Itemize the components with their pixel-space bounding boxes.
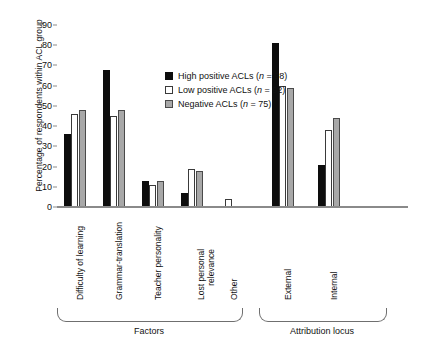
legend-swatch-black-icon	[165, 72, 173, 80]
y-tick-mark-80	[53, 45, 57, 46]
y-tick-mark-70	[53, 65, 57, 66]
y-tick-label-90: 90	[42, 20, 52, 30]
x-label-external: External	[283, 269, 293, 300]
bar-white-6	[325, 130, 332, 207]
x-label-internal: Internal	[329, 272, 339, 300]
legend-swatch-gray-icon	[165, 100, 173, 108]
bar-black-2	[142, 181, 149, 207]
legend: High positive ACLs (n = 98) Low positive…	[165, 69, 287, 111]
y-tick-mark-90	[53, 25, 57, 26]
y-tick-label-10: 10	[42, 182, 52, 192]
x-axis-line	[57, 206, 408, 208]
y-tick-label-0: 0	[47, 202, 52, 212]
bar-gray-2	[157, 181, 164, 207]
bar-gray-1	[118, 110, 125, 207]
bar-black-5	[272, 43, 279, 207]
y-tick-mark-30	[53, 146, 57, 147]
x-label-difficulty-of-learning: Difficulty of learning	[75, 226, 85, 300]
y-tick-label-60: 60	[42, 81, 52, 91]
legend-item-negative: Negative ACLs (n = 75)	[165, 97, 287, 110]
y-tick-label-20: 20	[42, 162, 52, 172]
group-label-attribution-locus: Attribution locus	[259, 326, 385, 336]
bar-black-1	[103, 70, 110, 208]
y-tick-mark-20	[53, 166, 57, 167]
x-label-teacher-personality: Teacher personality	[153, 226, 163, 300]
bar-gray-0	[79, 110, 86, 207]
bar-gray-6	[333, 118, 340, 207]
y-tick-mark-10	[53, 186, 57, 187]
brace-factors	[57, 308, 243, 322]
bar-black-6	[318, 165, 325, 207]
bar-black-3	[181, 193, 188, 207]
bar-gray-5	[287, 88, 294, 207]
y-tick-label-50: 50	[42, 101, 52, 111]
legend-item-high-positive: High positive ACLs (n = 98)	[165, 69, 287, 82]
bar-white-0	[71, 114, 78, 207]
y-tick-mark-40	[53, 126, 57, 127]
bar-black-0	[64, 134, 71, 207]
x-label-lost-personal-relevance: Lost personal relevance	[196, 249, 216, 300]
legend-item-low-positive: Low positive ACLs (n = 92)	[165, 83, 287, 96]
bar-white-2	[149, 185, 156, 207]
group-label-factors: Factors	[57, 326, 241, 336]
x-label-grammar-translation: Grammar-translation	[114, 222, 124, 300]
bar-white-1	[110, 116, 117, 207]
y-tick-mark-50	[53, 105, 57, 106]
y-tick-label-30: 30	[42, 141, 52, 151]
y-tick-label-80: 80	[42, 40, 52, 50]
legend-label-negative: Negative ACLs (n = 75)	[178, 99, 271, 109]
y-tick-label-40: 40	[42, 121, 52, 131]
legend-label-low-positive: Low positive ACLs (n = 92)	[178, 85, 285, 95]
bar-gray-3	[196, 171, 203, 207]
y-tick-mark-60	[53, 85, 57, 86]
bar-white-3	[188, 169, 195, 207]
brace-attribution-locus	[259, 308, 387, 322]
legend-label-high-positive: High positive ACLs (n = 98)	[178, 71, 287, 81]
y-tick-label-70: 70	[42, 60, 52, 70]
plot-area: 0102030405060708090 High positive ACLs (…	[57, 25, 399, 207]
legend-swatch-white-icon	[165, 86, 173, 94]
x-label-other: Other	[229, 279, 239, 300]
figure-container: Percentage of respondents within ACL gro…	[0, 0, 426, 353]
